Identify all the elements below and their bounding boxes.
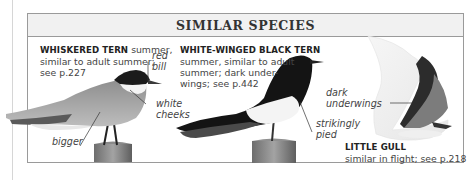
annotation-bigger: bigger bbox=[52, 136, 83, 147]
page-reference: wings; see p.442 bbox=[180, 78, 259, 89]
annotation-dark-underwings: dark underwings bbox=[326, 87, 382, 109]
species-description: summer; dark under- bbox=[180, 67, 278, 78]
little-gull-caption: LITTLE GULL similar in flight; see p.218 bbox=[345, 141, 466, 164]
page-reference: see p.227 bbox=[40, 67, 86, 78]
whiskered-tern-illustration bbox=[6, 70, 162, 162]
white-winged-black-tern-caption: WHITE-WINGED BLACK TERN summer, similar … bbox=[180, 44, 320, 89]
annotation-red-bill: red bill bbox=[152, 50, 168, 72]
annotation-strikingly-pied: strikingly pied bbox=[316, 118, 360, 140]
species-description: summer, similar to adult bbox=[180, 56, 294, 67]
species-name: LITTLE GULL bbox=[345, 142, 406, 152]
species-name: WHISKERED TERN bbox=[40, 45, 128, 55]
species-description: similar to adult summer; bbox=[40, 56, 155, 67]
species-description: similar in flight; see p.218 bbox=[345, 153, 466, 164]
annotation-white-cheeks: white cheeks bbox=[156, 98, 190, 120]
species-name: WHITE-WINGED BLACK TERN bbox=[180, 45, 320, 55]
